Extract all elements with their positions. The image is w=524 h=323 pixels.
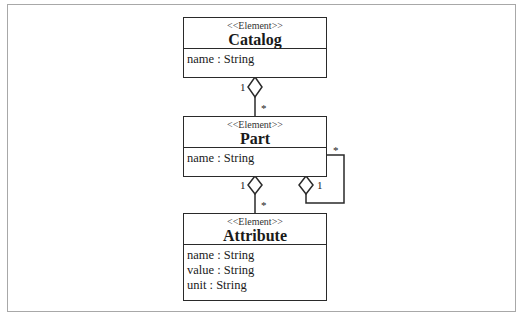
class-name: Catalog — [184, 31, 326, 48]
attribute-list: name : String value : String unit : Stri… — [184, 245, 326, 293]
attribute-item: name : String — [187, 248, 326, 263]
part-attribute-aggregation — [248, 176, 262, 213]
class-header: <<Element>> Part — [184, 117, 326, 148]
stereotype-label: <<Element>> — [184, 214, 326, 227]
class-attribute[interactable]: <<Element>> Attribute name : String valu… — [183, 213, 327, 301]
aggregation-diamond-icon — [248, 77, 262, 97]
multiplicity-part-side: * — [261, 103, 267, 114]
multiplicity-self-whole: 1 — [317, 180, 323, 191]
class-part[interactable]: <<Element>> Part name : String — [183, 116, 327, 177]
attribute-item: unit : String — [187, 278, 326, 293]
multiplicity-attribute-side: * — [261, 200, 267, 211]
attribute-list: name : String — [184, 49, 326, 67]
class-name: Part — [184, 130, 326, 147]
multiplicity-part-side: 1 — [240, 180, 246, 191]
class-name: Attribute — [184, 227, 326, 244]
class-header: <<Element>> Attribute — [184, 214, 326, 245]
class-catalog[interactable]: <<Element>> Catalog name : String — [183, 17, 327, 78]
catalog-part-aggregation — [248, 77, 262, 116]
multiplicity-catalog-side: 1 — [240, 82, 246, 93]
attribute-item: value : String — [187, 263, 326, 278]
class-header: <<Element>> Catalog — [184, 18, 326, 49]
aggregation-diamond-icon — [248, 176, 262, 194]
aggregation-diamond-icon — [299, 176, 313, 194]
stereotype-label: <<Element>> — [184, 18, 326, 31]
stereotype-label: <<Element>> — [184, 117, 326, 130]
attribute-item: name : String — [187, 151, 326, 166]
attribute-list: name : String — [184, 148, 326, 166]
attribute-item: name : String — [187, 52, 326, 67]
multiplicity-self-part: * — [333, 145, 339, 156]
